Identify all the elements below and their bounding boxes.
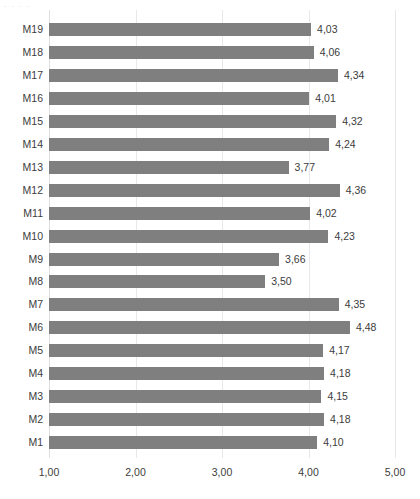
- bar-m16: [49, 92, 309, 105]
- category-label-m9: M9: [0, 248, 43, 271]
- bar-row: M174,34: [0, 64, 420, 87]
- bar-m5: [49, 344, 323, 357]
- clipped-title-remnant: . . . .: [0, 0, 420, 8]
- value-label-m4: 4,18: [330, 362, 350, 385]
- bar-row: M104,23: [0, 225, 420, 248]
- value-label-m10: 4,23: [334, 225, 354, 248]
- bar-row: M54,17: [0, 339, 420, 362]
- bar-row: M133,77: [0, 156, 420, 179]
- value-label-m14: 4,24: [335, 133, 355, 156]
- x-tick-label: 3,00: [200, 462, 244, 482]
- x-tick-label: 4,00: [287, 462, 331, 482]
- category-label-m10: M10: [0, 225, 43, 248]
- value-label-m17: 4,34: [344, 64, 364, 87]
- category-label-m12: M12: [0, 179, 43, 202]
- value-label-m12: 4,36: [346, 179, 366, 202]
- value-label-m2: 4,18: [330, 408, 350, 431]
- value-label-m16: 4,01: [315, 87, 335, 110]
- category-label-m19: M19: [0, 18, 43, 41]
- bar-m12: [49, 184, 340, 197]
- value-label-m11: 4,02: [316, 202, 336, 225]
- value-label-m18: 4,06: [320, 41, 340, 64]
- x-tick-label: 2,00: [114, 462, 158, 482]
- value-label-m7: 4,35: [345, 293, 365, 316]
- bar-row: M194,03: [0, 18, 420, 41]
- x-tick-label: 5,00: [373, 462, 417, 482]
- bar-row: M124,36: [0, 179, 420, 202]
- bar-row: M24,18: [0, 408, 420, 431]
- value-label-m9: 3,66: [285, 248, 305, 271]
- bar-m6: [49, 321, 350, 334]
- bar-m10: [49, 230, 328, 243]
- category-label-m14: M14: [0, 133, 43, 156]
- bar-row: M83,50: [0, 270, 420, 293]
- bar-row: M114,02: [0, 202, 420, 225]
- category-label-m16: M16: [0, 87, 43, 110]
- value-label-m13: 3,77: [295, 156, 315, 179]
- bar-row: M164,01: [0, 87, 420, 110]
- bar-chart: . . . . M194,03M184,06M174,34M164,01M154…: [0, 0, 420, 499]
- bar-m18: [49, 46, 314, 59]
- value-label-m15: 4,32: [342, 110, 362, 133]
- x-axis: 1,002,003,004,005,00: [0, 462, 420, 482]
- bar-m3: [49, 390, 321, 403]
- bar-m11: [49, 207, 310, 220]
- value-label-m1: 4,10: [323, 431, 343, 454]
- category-label-m15: M15: [0, 110, 43, 133]
- value-label-m6: 4,48: [356, 316, 376, 339]
- value-label-m3: 4,15: [327, 385, 347, 408]
- category-label-m17: M17: [0, 64, 43, 87]
- category-label-m11: M11: [0, 202, 43, 225]
- category-label-m3: M3: [0, 385, 43, 408]
- bar-m17: [49, 69, 338, 82]
- bar-row: M44,18: [0, 362, 420, 385]
- category-label-m5: M5: [0, 339, 43, 362]
- bar-m1: [49, 436, 317, 449]
- bar-row: M34,15: [0, 385, 420, 408]
- category-label-m4: M4: [0, 362, 43, 385]
- bar-m14: [49, 138, 329, 151]
- value-label-m8: 3,50: [271, 270, 291, 293]
- bar-m2: [49, 413, 324, 426]
- bar-row: M154,32: [0, 110, 420, 133]
- bar-m13: [49, 161, 289, 174]
- bar-row: M64,48: [0, 316, 420, 339]
- bar-row: M74,35: [0, 293, 420, 316]
- value-label-m19: 4,03: [317, 18, 337, 41]
- plot-area: M194,03M184,06M174,34M164,01M154,32M144,…: [0, 10, 420, 458]
- bar-m8: [49, 275, 265, 288]
- category-label-m2: M2: [0, 408, 43, 431]
- bar-m4: [49, 367, 324, 380]
- bar-m15: [49, 115, 336, 128]
- bar-row: M144,24: [0, 133, 420, 156]
- bar-m19: [49, 23, 311, 36]
- x-tick-label: 1,00: [27, 462, 71, 482]
- category-label-m1: M1: [0, 431, 43, 454]
- category-label-m13: M13: [0, 156, 43, 179]
- bar-row: M14,10: [0, 431, 420, 454]
- bar-row: M93,66: [0, 248, 420, 271]
- category-label-m8: M8: [0, 270, 43, 293]
- bar-m7: [49, 298, 339, 311]
- value-label-m5: 4,17: [329, 339, 349, 362]
- bar-row: M184,06: [0, 41, 420, 64]
- category-label-m7: M7: [0, 293, 43, 316]
- category-label-m6: M6: [0, 316, 43, 339]
- bar-m9: [49, 253, 279, 266]
- category-label-m18: M18: [0, 41, 43, 64]
